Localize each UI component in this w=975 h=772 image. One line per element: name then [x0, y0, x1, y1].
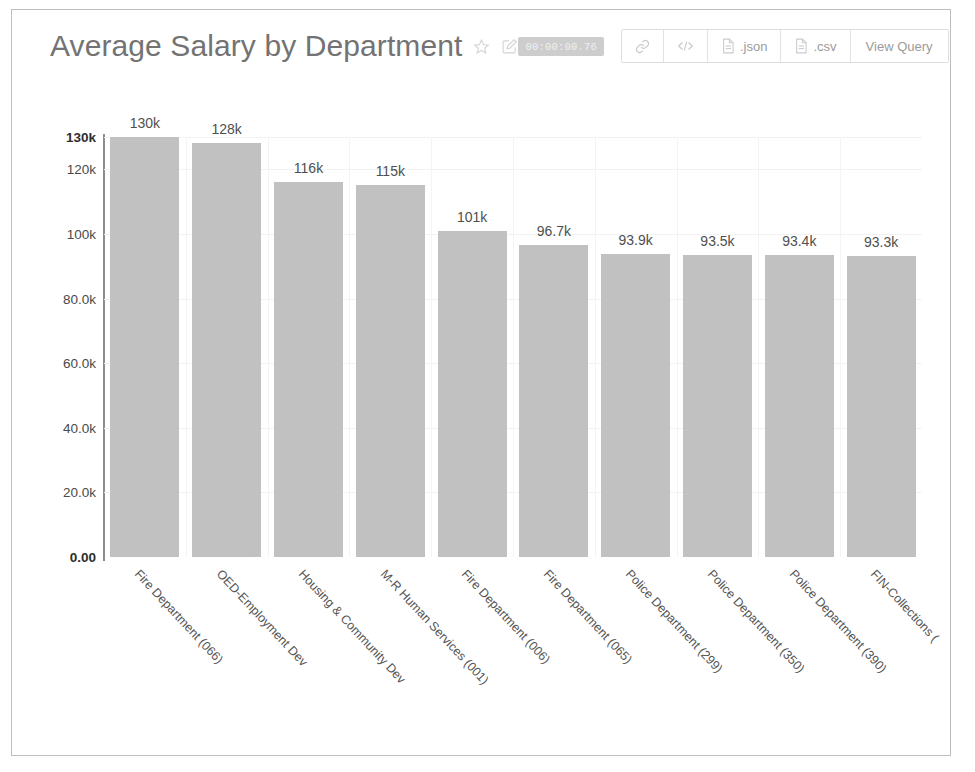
- chart-canvas: 130k120k100k80.0k60.0k40.0k20.0k0.00 130…: [12, 82, 952, 757]
- x-axis-tick-label: Police Department (299): [623, 567, 726, 676]
- page-title: Average Salary by Department: [50, 29, 462, 63]
- gridline-vertical: [840, 137, 841, 557]
- bar-value-label: 128k: [192, 121, 261, 137]
- download-json-button[interactable]: .json: [708, 30, 781, 62]
- gridline-vertical: [758, 137, 759, 557]
- x-axis-tick-label: Fire Department (006): [459, 567, 553, 666]
- edit-square-icon[interactable]: [501, 38, 518, 55]
- view-query-button[interactable]: View Query: [851, 30, 948, 62]
- view-query-label: View Query: [866, 39, 933, 54]
- chart-card: Average Salary by Department 00:00:00.76: [11, 9, 951, 756]
- gridline-vertical: [677, 137, 678, 557]
- bar[interactable]: [192, 143, 261, 557]
- bar[interactable]: [274, 182, 343, 557]
- bar-value-label: 101k: [438, 209, 507, 225]
- bar[interactable]: [765, 255, 834, 557]
- x-axis-tick-label: FIN-Collections (: [868, 567, 942, 645]
- y-axis-tick-label: 40.0k: [63, 420, 96, 435]
- plot-area: [104, 137, 922, 557]
- bar[interactable]: [601, 254, 670, 557]
- bar-value-label: 93.9k: [601, 232, 670, 248]
- x-axis-tick-label: OED-Employment Dev: [214, 567, 310, 669]
- y-axis-ticks: 130k120k100k80.0k60.0k40.0k20.0k0.00: [12, 82, 96, 757]
- bar-value-label: 93.3k: [847, 234, 916, 250]
- bar[interactable]: [847, 256, 916, 557]
- gridline-vertical: [513, 137, 514, 557]
- x-axis-tick-label: Fire Department (065): [541, 567, 635, 666]
- bar-value-label: 130k: [110, 115, 179, 131]
- bar-value-label: 96.7k: [519, 223, 588, 239]
- link-icon: [635, 39, 650, 54]
- bar[interactable]: [438, 231, 507, 557]
- download-csv-label: .csv: [813, 39, 836, 54]
- y-axis-tick-label: 20.0k: [63, 485, 96, 500]
- chart-clip: 130k120k100k80.0k60.0k40.0k20.0k0.00 130…: [12, 82, 952, 757]
- bar[interactable]: [110, 137, 179, 557]
- gridline-vertical: [186, 137, 187, 557]
- y-axis-tick-label: 120k: [67, 162, 96, 177]
- bar[interactable]: [356, 185, 425, 557]
- bar[interactable]: [519, 245, 588, 557]
- download-csv-button[interactable]: .csv: [781, 30, 850, 62]
- bar-value-label: 116k: [274, 160, 343, 176]
- gridline-vertical: [349, 137, 350, 557]
- y-axis-tick-label: 100k: [67, 226, 96, 241]
- y-axis-tick-label: 80.0k: [63, 291, 96, 306]
- query-timer-badge: 00:00:00.76: [518, 37, 604, 56]
- bar[interactable]: [683, 255, 752, 557]
- file-icon: [794, 38, 808, 54]
- gridline-vertical: [431, 137, 432, 557]
- y-axis-tick-label: 130k: [66, 130, 96, 145]
- embed-code-button[interactable]: [664, 30, 708, 62]
- x-axis-tick-label: Fire Department (066): [132, 567, 226, 666]
- bar-value-label: 93.4k: [765, 233, 834, 249]
- toolbar-button-group: .json .csv View Query: [621, 29, 949, 63]
- bar-value-label: 115k: [356, 163, 425, 179]
- download-json-label: .json: [740, 39, 767, 54]
- chart-header: Average Salary by Department 00:00:00.76: [12, 10, 950, 82]
- bar-value-label: 93.5k: [683, 233, 752, 249]
- star-icon[interactable]: [473, 38, 490, 55]
- code-icon: [677, 39, 694, 53]
- y-axis-tick-label: 60.0k: [63, 356, 96, 371]
- gridline-vertical: [268, 137, 269, 557]
- gridline-vertical: [595, 137, 596, 557]
- share-link-button[interactable]: [622, 30, 664, 62]
- y-axis-tick-label: 0.00: [70, 550, 96, 565]
- file-icon: [721, 38, 735, 54]
